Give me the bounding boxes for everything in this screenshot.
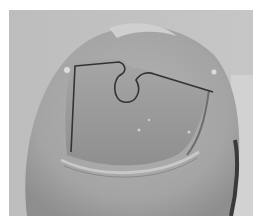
toenail-photo <box>9 10 253 216</box>
nail-spot <box>148 119 150 121</box>
brace-hook-left <box>64 67 70 73</box>
nail-spot <box>138 129 141 132</box>
toenail-illustration <box>9 10 253 216</box>
brace-hook-right <box>212 70 217 75</box>
nail-spot <box>188 131 191 134</box>
